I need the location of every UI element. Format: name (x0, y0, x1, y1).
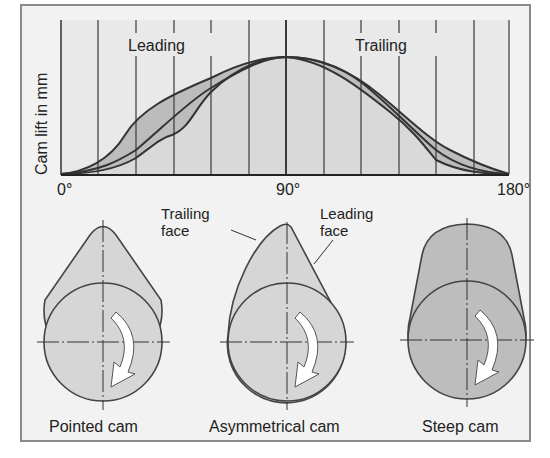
trailing-face-leader (231, 230, 256, 240)
leading-face-label-line1: Leading (320, 205, 373, 222)
trailing-region-label: Trailing (355, 37, 407, 54)
asymmetrical-cam-caption: Asymmetrical cam (209, 418, 340, 435)
steep-cam-caption: Steep cam (422, 418, 498, 435)
x-tick-90: 90° (276, 181, 300, 198)
y-axis-label: Cam lift in mm (33, 73, 50, 175)
trailing-face-label-line1: Trailing (161, 205, 210, 222)
pointed-cam (37, 220, 170, 410)
x-tick-180: 180° (497, 181, 530, 198)
steep-cam (400, 218, 534, 407)
trailing-face-label-line2: face (161, 222, 189, 239)
x-tick-0: 0° (57, 181, 72, 198)
leading-region-label: Leading (128, 37, 185, 54)
cam-diagram: Leading Trailing Cam lift in mm 0° 90° 1… (0, 0, 550, 458)
cam-lift-graph: Leading Trailing Cam lift in mm 0° 90° 1… (33, 20, 530, 198)
leading-face-label-line2: face (320, 222, 348, 239)
pointed-cam-caption: Pointed cam (49, 418, 138, 435)
asymmetrical-cam: Trailing face Leading face (161, 205, 373, 410)
leading-face-leader (314, 240, 333, 264)
